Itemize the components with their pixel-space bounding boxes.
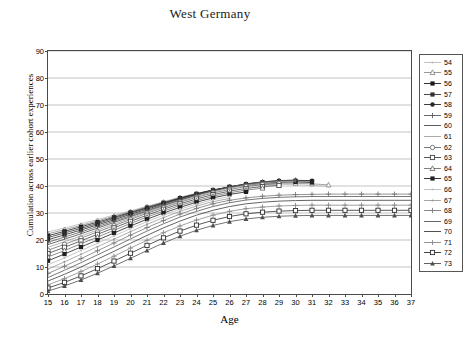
data-point-marker xyxy=(342,203,347,208)
x-axis-tick-mark xyxy=(279,294,280,297)
data-point-marker xyxy=(128,224,132,228)
legend-item-66[interactable]: 66 xyxy=(420,184,462,195)
y-axis-tick-mark xyxy=(45,78,48,79)
legend-marker-icon xyxy=(422,185,443,194)
legend-item-73[interactable]: 73 xyxy=(420,258,462,269)
data-point-marker xyxy=(359,192,364,197)
legend-marker-icon xyxy=(422,90,443,99)
data-point-marker xyxy=(194,217,199,222)
legend-item-67[interactable]: 67 xyxy=(420,195,462,206)
legend-item-72[interactable]: 72 xyxy=(420,248,462,259)
legend-marker-icon xyxy=(422,121,443,130)
legend: 5455565758596061626364656667686970717273 xyxy=(419,54,463,272)
data-point-marker xyxy=(243,206,248,211)
y-axis-tick-mark xyxy=(45,186,48,187)
legend-marker-icon xyxy=(422,238,443,247)
legend-item-57[interactable]: 57 xyxy=(420,89,462,100)
x-axis-tick-label: 21 xyxy=(143,298,151,307)
legend-item-69[interactable]: 69 xyxy=(420,216,462,227)
data-point-marker xyxy=(96,242,98,244)
data-point-marker xyxy=(194,223,198,227)
data-point-marker xyxy=(430,102,434,106)
x-axis-tick-label: 37 xyxy=(407,298,415,307)
legend-item-63[interactable]: 63 xyxy=(420,152,462,163)
data-point-marker xyxy=(146,221,148,223)
data-point-marker xyxy=(430,166,435,171)
legend-item-62[interactable]: 62 xyxy=(420,142,462,153)
data-point-marker xyxy=(276,203,281,208)
legend-marker-icon xyxy=(422,143,443,152)
data-point-marker xyxy=(431,199,433,201)
x-axis-tick-mark xyxy=(65,294,66,297)
legend-item-55[interactable]: 55 xyxy=(420,68,462,79)
x-axis-tick-mark xyxy=(329,294,330,297)
data-point-marker xyxy=(128,256,133,261)
legend-item-61[interactable]: 61 xyxy=(420,131,462,142)
data-point-marker xyxy=(144,225,149,230)
data-point-marker xyxy=(310,178,314,182)
page-title: West Germany xyxy=(0,6,420,22)
legend-item-60[interactable]: 60 xyxy=(420,121,462,132)
legend-marker-icon xyxy=(422,132,443,141)
data-point-marker xyxy=(359,203,364,208)
legend-item-59[interactable]: 59 xyxy=(420,110,462,121)
data-point-marker xyxy=(430,70,435,75)
y-axis-tick-label: 50 xyxy=(36,155,44,164)
x-axis-tick-mark xyxy=(114,294,115,297)
x-axis-label: Age xyxy=(47,313,412,325)
data-point-marker xyxy=(375,203,380,208)
legend-item-70[interactable]: 70 xyxy=(420,227,462,238)
data-point-marker xyxy=(392,203,397,208)
data-point-marker xyxy=(431,61,433,63)
series-68 xyxy=(48,192,411,277)
y-axis-tick-label: 90 xyxy=(36,47,44,56)
data-point-marker xyxy=(128,251,132,255)
legend-label: 71 xyxy=(443,239,452,246)
y-axis-tick-mark xyxy=(45,267,48,268)
legend-marker-icon xyxy=(422,217,443,226)
data-point-marker xyxy=(129,228,131,230)
data-point-marker xyxy=(310,208,314,212)
data-point-marker xyxy=(408,192,411,197)
x-axis-tick-mark xyxy=(246,294,247,297)
legend-item-54[interactable]: 54 xyxy=(420,57,462,68)
legend-item-56[interactable]: 56 xyxy=(420,78,462,89)
data-point-marker xyxy=(95,261,100,266)
data-point-marker xyxy=(430,92,434,96)
data-point-marker xyxy=(177,223,182,228)
data-point-marker xyxy=(111,240,116,245)
legend-label: 54 xyxy=(443,59,452,66)
x-axis-tick-label: 15 xyxy=(44,298,52,307)
data-point-marker xyxy=(408,203,411,208)
x-axis-tick-label: 27 xyxy=(242,298,250,307)
data-point-marker xyxy=(145,243,149,247)
legend-item-68[interactable]: 68 xyxy=(420,205,462,216)
data-point-marker xyxy=(63,257,65,259)
data-point-marker xyxy=(96,246,98,248)
data-point-marker xyxy=(326,203,331,208)
legend-marker-icon xyxy=(422,248,443,257)
y-axis-label: Cumulation across earlier cohort experie… xyxy=(25,30,35,280)
data-point-marker xyxy=(227,214,231,218)
data-point-marker xyxy=(376,208,380,212)
data-point-marker xyxy=(430,240,435,245)
x-axis-tick-mark xyxy=(147,294,148,297)
x-axis-tick-mark xyxy=(213,294,214,297)
legend-label: 66 xyxy=(443,186,452,193)
legend-item-58[interactable]: 58 xyxy=(420,99,462,110)
y-axis-tick-mark xyxy=(45,213,48,214)
legend-label: 57 xyxy=(443,91,452,98)
x-axis-tick-mark xyxy=(131,294,132,297)
chart-root: West Germany Cumulation across earlier c… xyxy=(0,0,468,337)
x-axis-tick-mark xyxy=(48,294,49,297)
data-point-marker xyxy=(79,245,83,249)
data-point-marker xyxy=(128,246,133,251)
data-point-marker xyxy=(342,192,347,197)
data-point-marker xyxy=(260,204,265,209)
legend-item-65[interactable]: 65 xyxy=(420,174,462,185)
x-axis-tick-label: 30 xyxy=(291,298,299,307)
data-point-marker xyxy=(430,208,435,213)
legend-item-64[interactable]: 64 xyxy=(420,163,462,174)
legend-item-71[interactable]: 71 xyxy=(420,237,462,248)
data-point-marker xyxy=(375,192,380,197)
